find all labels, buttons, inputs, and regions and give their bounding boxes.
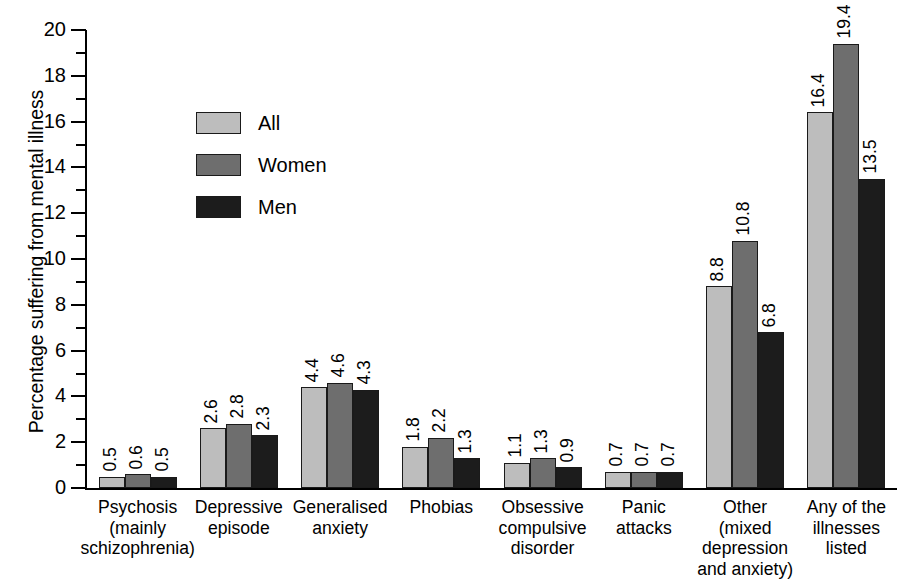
legend-swatch [196, 154, 241, 176]
x-axis-line [85, 488, 897, 490]
y-tick-mark [71, 166, 86, 168]
y-tick-label: 12 [18, 202, 66, 222]
bar-value-label: 10.8 [735, 202, 753, 236]
bar-value-label: 4.6 [330, 353, 348, 377]
bar: 0.9 [556, 467, 582, 488]
x-axis-label-line: illnesses [784, 518, 909, 539]
bar-value-label: 2.2 [431, 408, 449, 432]
bar: 4.6 [327, 383, 353, 488]
bar: 0.7 [605, 472, 631, 488]
bar-value-label: 0.9 [559, 438, 577, 462]
y-tick-mark [71, 121, 86, 123]
bar-value-label: 16.4 [810, 73, 828, 107]
x-axis-label-line: anxiety [278, 518, 403, 539]
legend-swatch [196, 196, 241, 218]
bar-group: 4.44.64.3 [301, 30, 379, 488]
y-tick-label: 0 [18, 477, 66, 497]
bar: 2.2 [428, 438, 454, 488]
y-tick-mark [71, 487, 86, 489]
bar: 1.3 [530, 458, 556, 488]
bar: 1.3 [454, 458, 480, 488]
legend-label: Women [258, 155, 327, 175]
x-axis-label-line: schizophrenia) [75, 538, 200, 559]
y-tick-label: 4 [18, 385, 66, 405]
bar-group: 8.810.86.8 [706, 30, 784, 488]
plot-area: 0.50.60.52.62.82.34.44.64.31.82.21.31.11… [87, 30, 897, 488]
y-tick-label: 16 [18, 111, 66, 131]
bar-value-label: 0.6 [128, 445, 146, 469]
bar-value-label: 2.6 [203, 399, 221, 423]
y-tick-mark [71, 395, 86, 397]
bar: 1.1 [504, 463, 530, 488]
bar-chart: Percentage suffering from mental illness… [0, 0, 912, 587]
y-tick-mark [71, 29, 86, 31]
bar-group: 1.11.30.9 [504, 30, 582, 488]
legend-label: Men [258, 197, 297, 217]
x-axis-label-line: listed [784, 538, 909, 559]
y-tick-mark [71, 350, 86, 352]
bar-value-label: 0.5 [102, 447, 120, 471]
bar-value-label: 19.4 [836, 5, 854, 39]
bar: 6.8 [758, 332, 784, 488]
bar-group: 1.82.21.3 [402, 30, 480, 488]
x-axis-label-line: and anxiety) [683, 559, 808, 580]
legend-swatch [196, 112, 241, 134]
bar-value-label: 8.8 [709, 257, 727, 281]
y-tick-mark [71, 258, 86, 260]
chart-legend: AllWomenMen [196, 108, 327, 234]
bar: 16.4 [807, 112, 833, 488]
bar-value-label: 4.3 [356, 360, 374, 384]
bar: 2.8 [226, 424, 252, 488]
y-tick-mark [71, 212, 86, 214]
bar: 19.4 [833, 44, 859, 488]
bar-value-label: 6.8 [761, 303, 779, 327]
y-tick-label: 2 [18, 431, 66, 451]
legend-item: Women [196, 150, 327, 180]
bar: 10.8 [732, 241, 758, 488]
y-tick-label: 10 [18, 248, 66, 268]
bar: 2.3 [252, 435, 278, 488]
legend-item: Men [196, 192, 327, 222]
bar-group: 16.419.413.5 [807, 30, 885, 488]
bar-value-label: 4.4 [304, 358, 322, 382]
bar: 8.8 [706, 286, 732, 488]
y-tick-label: 18 [18, 65, 66, 85]
y-tick-label: 8 [18, 294, 66, 314]
y-tick-label: 6 [18, 340, 66, 360]
bar-value-label: 2.3 [255, 406, 273, 430]
bar: 1.8 [402, 447, 428, 488]
bar: 13.5 [859, 179, 885, 488]
x-axis-label: Any of theillnesseslisted [784, 497, 909, 559]
y-tick-mark [71, 304, 86, 306]
bar-group: 2.62.82.3 [200, 30, 278, 488]
bar: 0.7 [657, 472, 683, 488]
bar-value-label: 1.3 [457, 429, 475, 453]
bar-value-label: 0.7 [660, 443, 678, 467]
bar-value-label: 13.5 [862, 140, 880, 174]
x-axis-label-line: disorder [480, 538, 605, 559]
y-tick-mark [71, 75, 86, 77]
bar: 4.4 [301, 387, 327, 488]
bar-group: 0.70.70.7 [605, 30, 683, 488]
bar-value-label: 0.7 [608, 443, 626, 467]
y-tick-mark [71, 441, 86, 443]
y-tick-label: 14 [18, 156, 66, 176]
bar-value-label: 0.7 [634, 443, 652, 467]
bar: 4.3 [353, 390, 379, 488]
bar-value-label: 1.8 [405, 417, 423, 441]
bar-group: 0.50.60.5 [99, 30, 177, 488]
y-tick-label: 20 [18, 19, 66, 39]
bar-value-label: 1.3 [533, 429, 551, 453]
bar-value-label: 0.5 [154, 447, 172, 471]
bar: 0.7 [631, 472, 657, 488]
bar: 0.5 [99, 477, 125, 488]
legend-item: All [196, 108, 327, 138]
bar-value-label: 1.1 [507, 433, 525, 457]
bar-value-label: 2.8 [229, 395, 247, 419]
bar: 0.6 [125, 474, 151, 488]
bar: 0.5 [151, 477, 177, 488]
legend-label: All [258, 113, 280, 133]
bar: 2.6 [200, 428, 226, 488]
x-axis-label-line: Any of the [784, 497, 909, 518]
